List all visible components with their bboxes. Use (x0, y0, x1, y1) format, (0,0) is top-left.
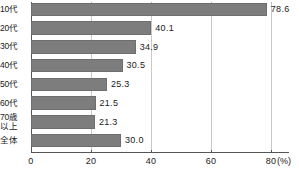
bar-row: 10代78.6 (0, 0, 299, 19)
bar (31, 40, 136, 54)
category-label-40代: 40代 (0, 56, 28, 75)
bar (31, 59, 123, 73)
bar-row: 40代30.5 (0, 56, 299, 75)
category-label-60代: 60代 (0, 94, 28, 113)
bar-row: 30代34.9 (0, 38, 299, 57)
x-tick-label: 20 (86, 156, 97, 166)
x-tick-mark (31, 150, 32, 153)
category-label-line: 30代 (0, 42, 18, 51)
category-label-line: 20代 (0, 24, 18, 33)
x-axis-unit-label: (%) (277, 156, 291, 166)
bar-value-label: 30.5 (127, 58, 146, 72)
bar-value-label: 25.3 (111, 77, 130, 91)
x-tick-mark (151, 150, 152, 153)
category-label-line: 60代 (0, 99, 18, 108)
bar (31, 134, 121, 148)
x-tick-label: 80 (266, 156, 277, 166)
bar-row: 20代40.1 (0, 19, 299, 38)
x-tick-mark (271, 150, 272, 153)
bar (31, 78, 107, 92)
category-label-line: 以上 (0, 122, 18, 131)
x-tick-label: 60 (206, 156, 217, 166)
category-label-全体: 全体 (0, 131, 28, 150)
category-label-70歳以上: 70歳以上 (0, 113, 28, 132)
bar-chart: 10代78.620代40.130代34.940代30.550代25.360代21… (0, 0, 299, 173)
bar (31, 21, 151, 35)
category-label-line: 40代 (0, 61, 18, 70)
bar-value-label: 21.5 (100, 96, 119, 110)
bar-value-label: 40.1 (155, 21, 174, 35)
x-tick-mark (91, 150, 92, 153)
bar (31, 115, 95, 129)
x-tick-label: 0 (28, 156, 33, 166)
bar-value-label: 78.6 (271, 2, 290, 16)
category-label-line: 10代 (0, 5, 18, 14)
category-label-10代: 10代 (0, 0, 28, 19)
bar (31, 96, 96, 110)
bar-value-label: 34.9 (140, 40, 159, 54)
bar-rows: 10代78.620代40.130代34.940代30.550代25.360代21… (0, 0, 299, 150)
x-axis-ticks: (%) 020406080 (0, 153, 299, 173)
bar-row: 60代21.5 (0, 94, 299, 113)
bar-row: 全体30.0 (0, 131, 299, 150)
category-label-20代: 20代 (0, 19, 28, 38)
bar (31, 3, 267, 17)
category-label-line: 全体 (0, 136, 18, 145)
category-label-line: 50代 (0, 80, 18, 89)
x-tick-mark (211, 150, 212, 153)
category-label-30代: 30代 (0, 38, 28, 57)
bar-value-label: 21.3 (99, 115, 118, 129)
x-tick-label: 40 (146, 156, 157, 166)
category-label-50代: 50代 (0, 75, 28, 94)
bar-value-label: 30.0 (125, 133, 144, 147)
bar-row: 50代25.3 (0, 75, 299, 94)
bar-row: 70歳以上21.3 (0, 113, 299, 132)
